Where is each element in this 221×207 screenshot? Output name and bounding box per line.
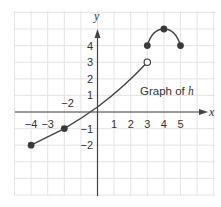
x-tick-label: 2: [128, 118, 134, 130]
axes: x y: [15, 9, 215, 196]
x-tick-label: 1: [111, 118, 117, 130]
extra-tick-label: −2: [61, 97, 74, 109]
y-tick-label: 3: [87, 56, 93, 68]
closed-point: [61, 125, 68, 132]
x-tick-label: −3: [41, 118, 54, 130]
y-tick-label: −2: [80, 139, 93, 151]
y-tick-label: 2: [87, 73, 93, 85]
y-axis-label: y: [93, 9, 100, 23]
x-tick-label: 4: [161, 118, 167, 130]
closed-point: [161, 26, 168, 33]
graph-caption: Graph of h: [140, 85, 194, 97]
y-tick-label: 1: [87, 89, 93, 101]
x-axis-label: x: [208, 105, 215, 119]
grid: [15, 11, 216, 196]
y-tick-label: −1: [80, 123, 93, 135]
x-tick-label: 5: [177, 118, 183, 130]
closed-point: [177, 42, 184, 49]
closed-point: [144, 42, 151, 49]
y-axis-arrow-icon: [95, 29, 101, 38]
closed-point: [28, 142, 35, 149]
x-tick-label: −4: [25, 118, 38, 130]
x-axis-arrow-icon: [199, 109, 208, 115]
open-point: [144, 59, 150, 65]
graph-of-h-chart: x y −4−3123454321−1−2−2 Graph of h: [0, 0, 221, 207]
x-tick-label: 3: [144, 118, 150, 130]
y-tick-label: 4: [87, 40, 93, 52]
